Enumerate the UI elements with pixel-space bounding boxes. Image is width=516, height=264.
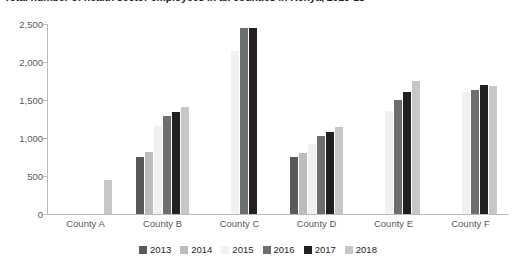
bar (480, 85, 488, 214)
chart-title: Total number of health sector employees … (4, 0, 512, 3)
y-axis-labels: 2,5002,0001,5001,0005000 (0, 24, 43, 215)
bar-chart: Total number of health sector employees … (0, 0, 516, 264)
legend-swatch-icon (180, 246, 188, 254)
bar (181, 107, 189, 214)
bar-group (367, 24, 420, 214)
bar (104, 180, 112, 214)
x-axis-labels: County ACounty BCounty CCounty DCounty E… (47, 218, 509, 234)
bar-group (444, 24, 497, 214)
y-axis-tick-mark (43, 214, 47, 215)
legend-label: 2015 (232, 245, 253, 255)
x-axis-category-label: County B (143, 218, 182, 229)
bar (403, 92, 411, 214)
legend-label: 2014 (191, 245, 212, 255)
bar (412, 81, 420, 214)
legend-item[interactable]: 2018 (345, 245, 377, 255)
legend-item[interactable]: 2015 (221, 245, 253, 255)
x-axis-category-label: County C (220, 218, 260, 229)
legend-swatch-icon (345, 246, 353, 254)
y-axis-tick-label: 1,000 (19, 133, 43, 144)
y-axis-tick-mark (43, 100, 47, 101)
y-axis-tick-mark (43, 138, 47, 139)
bar (240, 28, 248, 214)
bar (154, 126, 162, 214)
bar-group (213, 24, 266, 214)
x-axis-category-label: County E (374, 218, 413, 229)
legend-label: 2018 (356, 245, 377, 255)
y-axis-tick-mark (43, 176, 47, 177)
bar (489, 86, 497, 214)
bar-group (290, 24, 343, 214)
bar (299, 153, 307, 214)
bar (394, 100, 402, 214)
bar (249, 28, 257, 214)
legend-item[interactable]: 2017 (304, 245, 336, 255)
x-axis-category-label: County A (66, 218, 105, 229)
y-axis-tick-label: 2,500 (19, 19, 43, 30)
legend-swatch-icon (139, 246, 147, 254)
bar (145, 152, 153, 214)
legend-swatch-icon (263, 246, 271, 254)
bar (231, 51, 239, 214)
y-axis-tick-label: 2,000 (19, 57, 43, 68)
bar (326, 132, 334, 214)
x-axis-category-label: County D (297, 218, 337, 229)
y-axis-tick-mark (43, 24, 47, 25)
bar (172, 112, 180, 214)
bar-group (136, 24, 189, 214)
bar (308, 144, 316, 214)
bar (385, 111, 393, 214)
legend-label: 2016 (274, 245, 295, 255)
chart-legend: 201320142015201620172018 (0, 245, 516, 255)
bar (335, 127, 343, 214)
legend-item[interactable]: 2013 (139, 245, 171, 255)
bar-group (59, 24, 112, 214)
x-axis-line (47, 214, 509, 215)
x-axis-category-label: County F (451, 218, 490, 229)
legend-label: 2017 (315, 245, 336, 255)
y-axis-line (47, 24, 48, 215)
legend-swatch-icon (304, 246, 312, 254)
bar (462, 92, 470, 214)
bar (471, 90, 479, 214)
bar (136, 157, 144, 214)
y-axis-tick-mark (43, 62, 47, 63)
bar (163, 116, 171, 214)
y-axis-tick-label: 1,500 (19, 95, 43, 106)
legend-item[interactable]: 2014 (180, 245, 212, 255)
y-axis-tick-label: 500 (27, 171, 43, 182)
legend-label: 2013 (150, 245, 171, 255)
plot-area (47, 24, 509, 215)
legend-item[interactable]: 2016 (263, 245, 295, 255)
bar (290, 157, 298, 214)
bar (317, 136, 325, 214)
legend-swatch-icon (221, 246, 229, 254)
